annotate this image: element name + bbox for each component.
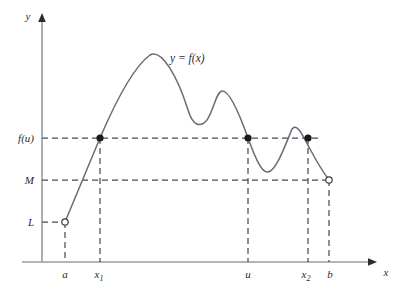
x-tick-label-u: u bbox=[245, 268, 251, 280]
y-value-label-L: L bbox=[27, 216, 34, 228]
point-u-filled-marker bbox=[244, 134, 251, 141]
point-x1-filled-marker bbox=[96, 134, 103, 141]
y-axis-label: y bbox=[25, 10, 31, 22]
x-tick-label-x1-subscript: 1 bbox=[99, 274, 103, 283]
x-tick-label-x2: x2 bbox=[301, 268, 311, 283]
y-value-label-f-of-u: f(u) bbox=[18, 132, 34, 145]
point-x2-filled-marker bbox=[304, 134, 311, 141]
x-tick-label-x2-subscript: 2 bbox=[306, 274, 310, 283]
level-lines-group bbox=[42, 138, 332, 222]
drop-lines-group bbox=[65, 138, 329, 262]
x-axis-label: x bbox=[383, 266, 389, 278]
y-axis-arrowhead bbox=[38, 13, 46, 22]
point-b-M-open-marker bbox=[326, 177, 332, 183]
curve-equation-label: y = f(x) bbox=[169, 52, 205, 65]
intermediate-value-theorem-figure: y x y = f(x) f(u) M L a x1 u x2 b bbox=[0, 0, 399, 292]
point-a-L-open-marker bbox=[62, 219, 68, 225]
axes-group bbox=[22, 13, 377, 266]
x-axis-arrowhead bbox=[368, 258, 377, 266]
y-value-label-M: M bbox=[24, 174, 35, 186]
x-tick-label-a: a bbox=[62, 268, 68, 280]
x-tick-label-x1: x1 bbox=[94, 268, 104, 283]
x-tick-label-b: b bbox=[327, 268, 333, 280]
